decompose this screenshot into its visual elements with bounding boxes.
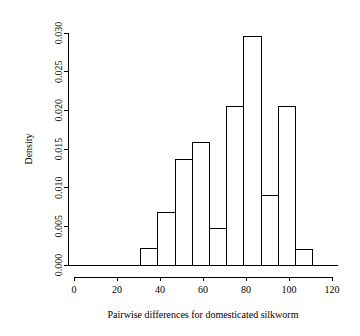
y-axis-tick-label: 0.025 — [53, 60, 64, 83]
histogram-bar — [141, 249, 158, 265]
x-axis-tick-label: 120 — [325, 284, 340, 295]
y-axis-tick-label: 0.005 — [53, 215, 64, 238]
y-axis-tick-label: 0.020 — [53, 99, 64, 122]
histogram-plot: 0.0000.0050.0100.0150.0200.0250.030Densi… — [0, 0, 360, 336]
histogram-bar — [175, 160, 192, 265]
y-axis-title: Density — [23, 133, 34, 164]
x-axis-tick-label: 60 — [198, 284, 208, 295]
x-axis-tick-label: 20 — [112, 284, 122, 295]
histogram-bar — [261, 195, 278, 265]
x-axis-tick-label: 80 — [241, 284, 251, 295]
y-axis-tick-label: 0.000 — [53, 254, 64, 277]
histogram-bar — [295, 250, 312, 265]
y-axis-tick-label: 0.010 — [53, 176, 64, 199]
histogram-bar — [158, 212, 175, 265]
histogram-bar — [244, 36, 261, 265]
y-axis-tick-label: 0.030 — [53, 22, 64, 45]
x-axis-tick-label: 100 — [282, 284, 297, 295]
x-axis-tick-label: 40 — [155, 284, 165, 295]
histogram-bar — [192, 142, 209, 265]
y-axis-tick-label: 0.015 — [53, 138, 64, 161]
x-axis-title: Pairwise differences for domesticated si… — [108, 309, 299, 320]
histogram-bar — [209, 229, 226, 265]
chart-canvas: 0.0000.0050.0100.0150.0200.0250.030Densi… — [0, 0, 360, 336]
histogram-bar — [227, 106, 244, 265]
x-axis-tick-label: 0 — [72, 284, 77, 295]
histogram-bar — [278, 106, 295, 265]
